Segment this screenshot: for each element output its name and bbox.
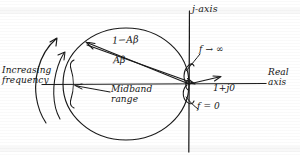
vector-label-one-minus-abeta: 1−Aβ: [112, 34, 139, 45]
high-frequency-limit-label: f → ∞: [199, 45, 224, 54]
increasing-frequency-inner-arc: [54, 53, 64, 119]
increasing-frequency-label-line2: frequency: [2, 76, 49, 85]
j-axis-label: j-axis: [192, 4, 218, 14]
zero-frequency-label: f = 0: [197, 102, 220, 111]
vector-label-abeta: Aβ: [113, 55, 126, 66]
real-axis-label-line2: axis: [268, 78, 286, 87]
unity-point-label: 1+j0: [213, 84, 235, 93]
high-frequency-leader-line: [186, 54, 200, 71]
midband-range-label-line2: range: [111, 95, 138, 104]
